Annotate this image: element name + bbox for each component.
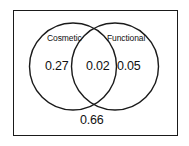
venn-diagram-figure: Cosmetic Functional 0.27 0.02 0.05 0.66: [0, 0, 189, 146]
region-value-cosmetic-only: 0.27: [45, 59, 69, 73]
set-label-cosmetic: Cosmetic: [47, 33, 82, 43]
region-value-intersection: 0.02: [86, 59, 110, 73]
set-label-functional: Functional: [107, 33, 145, 43]
region-value-functional-only: 0.05: [117, 59, 141, 73]
region-value-outside: 0.66: [80, 113, 104, 127]
